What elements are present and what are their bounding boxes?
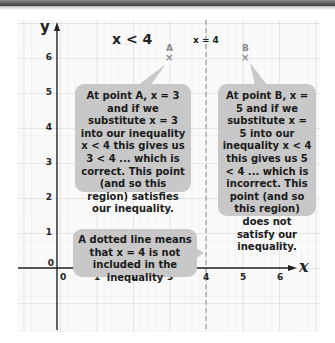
y-tick: 3	[38, 157, 52, 167]
y-tick: 6	[38, 52, 52, 62]
x-tick: 5	[240, 272, 246, 282]
y-tick: 0	[40, 258, 54, 268]
point-b-marker: ×	[241, 52, 249, 63]
x-tick: 6	[277, 272, 283, 282]
y-tick: 4	[38, 122, 52, 132]
y-tick: 5	[38, 87, 52, 97]
callout-point-a: At point A, x = 3 and if we substitute x…	[75, 84, 191, 192]
y-axis-label: y	[40, 18, 50, 36]
x-tick: 4	[203, 272, 209, 282]
region-label: x < 4	[112, 31, 152, 47]
x-tick: 0	[60, 272, 66, 282]
callout-point-b: At point B, x = 5 and if we substitute x…	[218, 84, 316, 216]
y-tick: 2	[38, 192, 52, 202]
y-tick: 1	[38, 227, 52, 237]
boundary-label: x = 4	[193, 35, 219, 45]
callout-dotted-line: A dotted line means that x = 4 is not in…	[73, 229, 197, 277]
x-axis-label: x	[299, 257, 309, 276]
point-a-marker: ×	[165, 52, 173, 63]
